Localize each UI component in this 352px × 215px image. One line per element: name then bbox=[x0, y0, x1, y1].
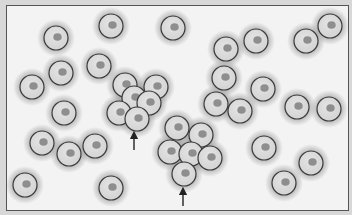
cell bbox=[30, 131, 54, 155]
nucleus bbox=[53, 33, 61, 41]
nucleus bbox=[253, 36, 261, 44]
nucleus bbox=[22, 180, 30, 188]
cell bbox=[228, 99, 252, 123]
nucleus bbox=[213, 99, 221, 107]
nucleus bbox=[221, 73, 229, 81]
cell bbox=[158, 140, 182, 164]
nucleus bbox=[29, 82, 37, 90]
cell bbox=[299, 151, 323, 175]
cell bbox=[49, 61, 73, 85]
nucleus bbox=[327, 21, 335, 29]
nucleus bbox=[108, 21, 116, 29]
nucleus bbox=[167, 147, 175, 155]
nucleus bbox=[207, 153, 215, 161]
cell bbox=[20, 75, 44, 99]
cell bbox=[285, 95, 309, 119]
cell bbox=[125, 107, 149, 131]
nucleus bbox=[58, 68, 66, 76]
nucleus bbox=[188, 149, 196, 157]
cell-illustration bbox=[7, 6, 349, 211]
nucleus bbox=[281, 178, 289, 186]
cell bbox=[252, 136, 276, 160]
nucleus bbox=[108, 183, 116, 191]
nucleus bbox=[303, 36, 311, 44]
cell bbox=[198, 146, 222, 170]
nucleus bbox=[181, 169, 189, 177]
cell bbox=[165, 116, 189, 140]
nucleus bbox=[134, 114, 142, 122]
nucleus bbox=[260, 84, 268, 92]
nucleus bbox=[146, 98, 154, 106]
cell bbox=[57, 142, 81, 166]
cell bbox=[204, 92, 228, 116]
cell bbox=[99, 176, 123, 200]
cell bbox=[83, 134, 107, 158]
nucleus bbox=[61, 108, 69, 116]
cell bbox=[318, 14, 342, 38]
cell bbox=[317, 97, 341, 121]
nucleus bbox=[170, 23, 178, 31]
nucleus bbox=[294, 102, 302, 110]
cell bbox=[44, 26, 68, 50]
nucleus bbox=[174, 123, 182, 131]
cell bbox=[272, 171, 296, 195]
cell bbox=[214, 37, 238, 61]
nucleus bbox=[308, 158, 316, 166]
cell bbox=[251, 77, 275, 101]
cell bbox=[161, 16, 185, 40]
cell bbox=[13, 173, 37, 197]
cell bbox=[99, 14, 123, 38]
nucleus bbox=[92, 141, 100, 149]
cell bbox=[294, 29, 318, 53]
nucleus bbox=[237, 106, 245, 114]
nucleus bbox=[66, 149, 74, 157]
nucleus bbox=[116, 108, 124, 116]
nucleus bbox=[261, 143, 269, 151]
micrograph-panel bbox=[6, 5, 349, 211]
cell bbox=[52, 101, 76, 125]
nucleus bbox=[39, 138, 47, 146]
nucleus bbox=[153, 82, 161, 90]
nucleus bbox=[223, 44, 231, 52]
cell bbox=[212, 66, 236, 90]
nucleus bbox=[326, 104, 334, 112]
cell bbox=[172, 162, 196, 186]
nucleus bbox=[198, 130, 206, 138]
cell bbox=[244, 29, 268, 53]
cell bbox=[87, 54, 111, 78]
nucleus bbox=[96, 61, 104, 69]
